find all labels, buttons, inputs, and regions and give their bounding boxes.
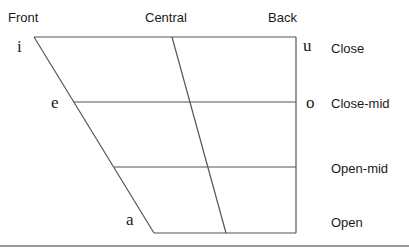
column-label-front: Front: [8, 11, 38, 24]
column-label-central: Central: [145, 11, 187, 24]
row-label-close-mid: Close-mid: [331, 97, 390, 110]
row-label-open: Open: [331, 216, 363, 229]
row-label-open-mid: Open-mid: [331, 162, 388, 175]
front-edge: [34, 37, 154, 233]
central-line: [172, 37, 226, 233]
vowel-e: e: [51, 94, 59, 111]
vowel-trapezoid: [0, 0, 409, 248]
vowel-o: o: [306, 94, 315, 111]
vowel-a: a: [126, 211, 134, 228]
vowel-u: u: [303, 37, 312, 54]
vowel-i: i: [17, 38, 22, 55]
column-label-back: Back: [268, 11, 297, 24]
row-label-close: Close: [331, 42, 364, 55]
